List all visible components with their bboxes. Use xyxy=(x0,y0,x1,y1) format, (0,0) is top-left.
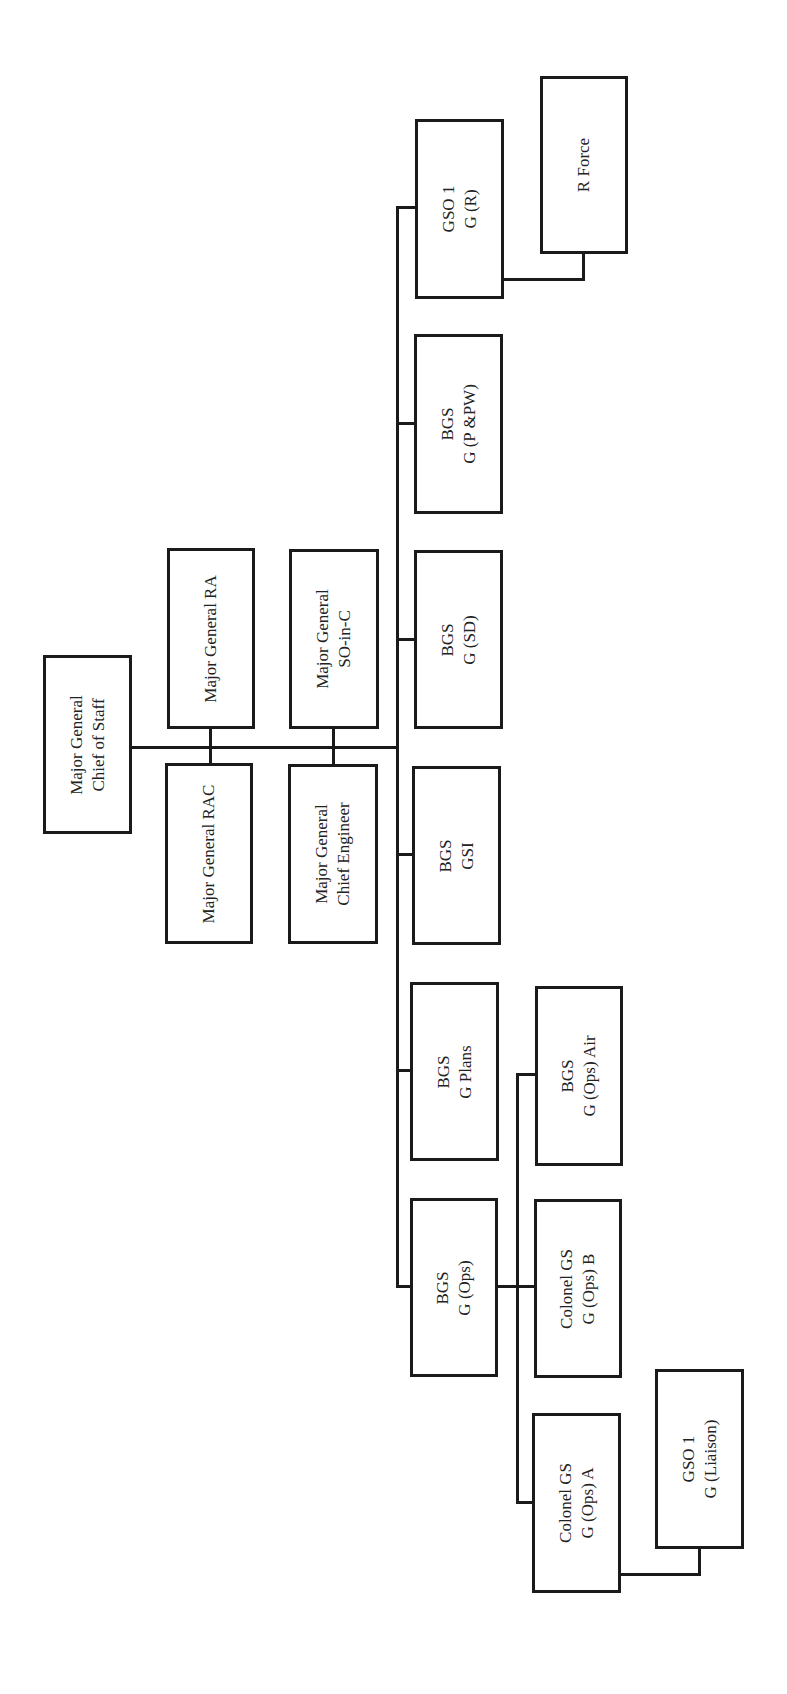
node-label-line: G (Ops) xyxy=(454,1260,476,1315)
node-label-line: Major General RAC xyxy=(198,784,220,923)
connector-line xyxy=(396,638,415,641)
node-label-line: Colonel GS xyxy=(555,1463,577,1543)
node-label-line: Chief Engineer xyxy=(333,802,355,905)
node-label-line: BGS xyxy=(437,615,459,665)
connector-line xyxy=(396,1285,411,1288)
node-label-line: G Plans xyxy=(455,1045,477,1098)
node-label-line: BGS xyxy=(435,839,457,872)
node-label-line: Major General RA xyxy=(200,575,222,702)
node-gso1-gr: GSO 1G (R) xyxy=(415,119,504,299)
connector-line xyxy=(396,206,416,209)
connector-line xyxy=(396,853,413,856)
node-label-line: G (Ops) B xyxy=(578,1249,600,1329)
connector-line xyxy=(516,1501,533,1504)
node-label-line: G (SD) xyxy=(459,615,481,665)
node-label-line: BGS xyxy=(557,1035,579,1116)
connector-line xyxy=(698,1548,701,1576)
connector-line xyxy=(396,206,399,1288)
node-label-line: R Force xyxy=(573,138,595,192)
node-bgs-gsi: BGSGSI xyxy=(412,766,501,945)
node-r-force: R Force xyxy=(540,76,628,254)
node-label: GSO 1G (Liaison) xyxy=(678,1420,722,1499)
connector-line xyxy=(396,422,415,425)
node-label: Colonel GSG (Ops) B xyxy=(556,1249,600,1329)
node-label: Major GeneralChief Engineer xyxy=(311,802,355,905)
node-label: BGSG (Ops) xyxy=(432,1260,476,1315)
node-label: Major GeneralSO-in-C xyxy=(312,589,356,689)
node-label: Major GeneralChief of Staff xyxy=(66,695,110,795)
node-label-line: Major General xyxy=(312,589,334,689)
node-label: BGSG Plans xyxy=(433,1045,477,1098)
node-label-line: BGS xyxy=(433,1045,455,1098)
node-mg-ra: Major General RA xyxy=(167,548,255,729)
node-label-line: BGS xyxy=(432,1260,454,1315)
node-mg-rac: Major General RAC xyxy=(165,763,253,944)
node-label-line: G (Ops) A xyxy=(577,1463,599,1543)
node-label-line: GSO 1 xyxy=(678,1420,700,1499)
node-label: Major General RA xyxy=(200,575,222,702)
node-label-line: GSI xyxy=(457,839,479,872)
node-mg-chief-eng: Major GeneralChief Engineer xyxy=(288,764,378,944)
connector-line xyxy=(582,253,585,281)
node-label-line: G (P &PW) xyxy=(459,384,481,464)
node-label-line: Major General xyxy=(311,802,333,905)
node-label-line: BGS xyxy=(437,384,459,464)
node-label-line: Chief of Staff xyxy=(88,695,110,795)
node-bgs-ops-air: BGSG (Ops) Air xyxy=(535,986,623,1166)
node-label-line: Major General xyxy=(66,695,88,795)
connector-line xyxy=(332,727,335,765)
node-col-ops-a: Colonel GSG (Ops) A xyxy=(532,1413,621,1593)
node-label: BGSG (Ops) Air xyxy=(557,1035,601,1116)
node-label: BGSG (SD) xyxy=(437,615,481,665)
node-bgs-ppw: BGSG (P &PW) xyxy=(414,334,503,514)
node-col-ops-b: Colonel GSG (Ops) B xyxy=(534,1199,622,1378)
node-label-line: G (Ops) Air xyxy=(579,1035,601,1116)
node-gso1-liaison: GSO 1G (Liaison) xyxy=(655,1369,744,1549)
node-label-line: Colonel GS xyxy=(556,1249,578,1329)
node-bgs-ops: BGSG (Ops) xyxy=(410,1198,498,1377)
node-label-line: G (Liaison) xyxy=(700,1420,722,1499)
node-label: Major General RAC xyxy=(198,784,220,923)
node-label: BGSGSI xyxy=(435,839,479,872)
node-mg-so-in-c: Major GeneralSO-in-C xyxy=(289,549,379,729)
node-bgs-plans: BGSG Plans xyxy=(410,982,499,1161)
node-label-line: G (R) xyxy=(460,186,482,233)
node-label: BGSG (P &PW) xyxy=(437,384,481,464)
connector-line xyxy=(620,1573,701,1576)
connector-line xyxy=(131,746,399,749)
connector-line xyxy=(516,1073,536,1076)
org-chart: Major GeneralChief of StaffMajor General… xyxy=(0,0,787,1694)
connector-line xyxy=(503,278,585,281)
node-label-line: SO-in-C xyxy=(334,589,356,689)
node-chief-of-staff: Major GeneralChief of Staff xyxy=(43,655,132,834)
connector-line xyxy=(396,1069,411,1072)
node-label: R Force xyxy=(573,138,595,192)
node-bgs-sd: BGSG (SD) xyxy=(414,550,503,729)
node-label: GSO 1G (R) xyxy=(438,186,482,233)
connector-line xyxy=(516,1073,519,1504)
node-label: Colonel GSG (Ops) A xyxy=(555,1463,599,1543)
connector-line xyxy=(209,727,212,765)
node-label-line: GSO 1 xyxy=(438,186,460,233)
